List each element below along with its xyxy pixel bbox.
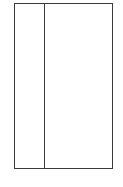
frame-column-left xyxy=(15,4,45,168)
frame-column-right xyxy=(45,4,112,168)
frame-column-left-text xyxy=(15,4,44,168)
frame-column-right-text xyxy=(45,4,112,168)
bordered-frame xyxy=(14,3,113,169)
page-canvas xyxy=(0,0,123,187)
